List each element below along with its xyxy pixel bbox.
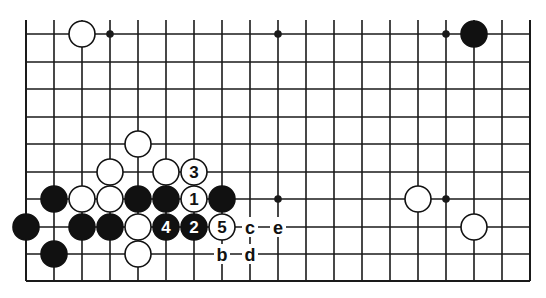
black-stone-icon bbox=[13, 214, 39, 240]
move-number: 3 bbox=[189, 163, 198, 182]
star-point-icon bbox=[442, 195, 450, 203]
move-number: 5 bbox=[217, 218, 226, 237]
white-stone bbox=[153, 159, 179, 185]
white-stone-icon bbox=[461, 214, 487, 240]
white-stone-icon bbox=[69, 21, 95, 47]
white-stone bbox=[97, 159, 123, 185]
white-stone bbox=[125, 214, 151, 240]
go-board: acebd 31425 bbox=[0, 0, 546, 298]
black-stone-icon bbox=[153, 186, 179, 212]
black-stone-icon bbox=[461, 21, 487, 47]
white-stone-icon bbox=[97, 186, 123, 212]
white-stone-icon bbox=[125, 214, 151, 240]
black-stone bbox=[125, 186, 151, 212]
mark-letter: e bbox=[273, 218, 283, 238]
white-stone bbox=[405, 186, 431, 212]
mark-letter: b bbox=[217, 245, 228, 265]
black-stone bbox=[97, 214, 123, 240]
move-number: 2 bbox=[189, 218, 198, 237]
black-stone bbox=[41, 241, 67, 267]
black-stone-icon bbox=[41, 241, 67, 267]
white-stone-icon bbox=[405, 186, 431, 212]
white-stone-move-5: 5 bbox=[209, 214, 235, 240]
black-stone bbox=[41, 186, 67, 212]
black-stone-icon bbox=[125, 186, 151, 212]
mark-e: e bbox=[270, 217, 286, 238]
white-stone-move-3: 3 bbox=[181, 159, 207, 185]
white-stone bbox=[69, 186, 95, 212]
white-stone bbox=[125, 131, 151, 157]
white-stone-move-1: 1 bbox=[181, 186, 207, 212]
black-stone-icon bbox=[69, 214, 95, 240]
star-point-icon bbox=[274, 30, 282, 38]
white-stone bbox=[125, 241, 151, 267]
black-stone bbox=[461, 21, 487, 47]
white-stone-icon bbox=[69, 186, 95, 212]
star-point-icon bbox=[442, 30, 450, 38]
black-stone-move-2: 2 bbox=[181, 214, 207, 240]
white-stone-icon bbox=[153, 159, 179, 185]
mark-letter: c bbox=[245, 218, 255, 238]
black-stone-icon bbox=[209, 186, 235, 212]
black-stone-icon bbox=[41, 186, 67, 212]
star-point-icon bbox=[106, 30, 114, 38]
mark-letter: d bbox=[245, 245, 256, 265]
white-stone bbox=[461, 214, 487, 240]
white-stone bbox=[69, 21, 95, 47]
black-stone-icon bbox=[97, 214, 123, 240]
white-stone-icon bbox=[125, 131, 151, 157]
move-number: 4 bbox=[161, 218, 171, 237]
board-grid bbox=[26, 20, 530, 281]
white-stone-icon bbox=[125, 241, 151, 267]
star-point-icon bbox=[274, 195, 282, 203]
black-stone bbox=[69, 214, 95, 240]
black-stone bbox=[209, 186, 235, 212]
mark-b: b bbox=[214, 244, 230, 265]
white-stone bbox=[97, 186, 123, 212]
mark-c: c bbox=[242, 217, 258, 238]
black-stone-move-4: 4 bbox=[153, 214, 179, 240]
black-stone bbox=[13, 214, 39, 240]
black-stone bbox=[153, 186, 179, 212]
move-number: 1 bbox=[189, 190, 198, 209]
white-stone-icon bbox=[97, 159, 123, 185]
mark-d: d bbox=[242, 244, 258, 265]
